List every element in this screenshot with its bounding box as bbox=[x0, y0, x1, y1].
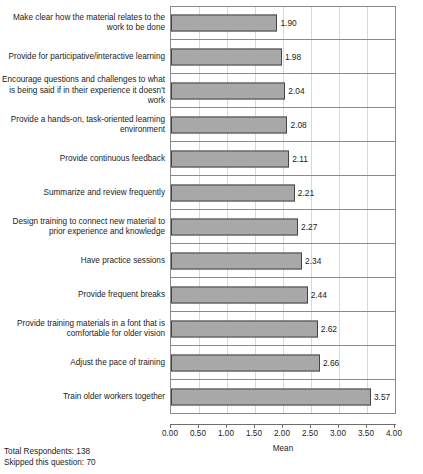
category-label: Provide continuous feedback bbox=[0, 142, 170, 176]
gridline bbox=[367, 40, 368, 73]
gridline bbox=[311, 142, 312, 175]
category-label: Design training to connect new material … bbox=[0, 210, 170, 244]
chart-row: Have practice sessions2.34 bbox=[0, 244, 423, 278]
chart-row: Train older workers together3.57 bbox=[0, 380, 423, 414]
gridline bbox=[367, 108, 368, 141]
category-label: Summarize and review frequently bbox=[0, 176, 170, 210]
chart-row: Make clear how the material relates to t… bbox=[0, 6, 423, 40]
x-axis-tick bbox=[226, 424, 227, 428]
bar bbox=[171, 150, 289, 167]
gridline bbox=[339, 7, 340, 39]
row-plot-area: 2.21 bbox=[170, 176, 396, 210]
row-plot-area: 2.44 bbox=[170, 278, 396, 312]
gridline bbox=[339, 74, 340, 107]
x-axis-tick-label: 2.00 bbox=[274, 429, 290, 438]
bar-chart: Make clear how the material relates to t… bbox=[0, 0, 423, 474]
x-axis-tick bbox=[338, 424, 339, 428]
category-label: Encourage questions and challenges to wh… bbox=[0, 74, 170, 108]
x-axis-tick-label: 3.00 bbox=[330, 429, 346, 438]
x-axis-tick-label: 2.50 bbox=[302, 429, 318, 438]
gridline bbox=[367, 210, 368, 243]
gridline bbox=[339, 210, 340, 243]
bar-value-label: 2.04 bbox=[285, 86, 304, 96]
bar bbox=[171, 82, 285, 99]
x-axis-tick-label: 3.50 bbox=[358, 429, 374, 438]
gridline bbox=[339, 40, 340, 73]
bar-value-label: 1.90 bbox=[277, 18, 296, 28]
gridline bbox=[367, 312, 368, 345]
gridline bbox=[339, 108, 340, 141]
chart-row: Design training to connect new material … bbox=[0, 210, 423, 244]
bar bbox=[171, 218, 298, 235]
x-axis-tick bbox=[198, 424, 199, 428]
row-plot-area: 2.66 bbox=[170, 346, 396, 380]
chart-row: Provide for participative/interactive le… bbox=[0, 40, 423, 74]
row-plot-area: 2.08 bbox=[170, 108, 396, 142]
bar bbox=[171, 286, 308, 303]
bar bbox=[171, 320, 318, 337]
gridline bbox=[339, 278, 340, 311]
bar-value-label: 2.11 bbox=[289, 154, 308, 164]
row-plot-area: 2.11 bbox=[170, 142, 396, 176]
gridline bbox=[311, 7, 312, 39]
gridline bbox=[367, 142, 368, 175]
x-axis-tick bbox=[310, 424, 311, 428]
row-plot-area: 2.34 bbox=[170, 244, 396, 278]
gridline bbox=[311, 40, 312, 73]
chart-row: Summarize and review frequently2.21 bbox=[0, 176, 423, 210]
chart-row: Adjust the pace of training2.66 bbox=[0, 346, 423, 380]
x-axis-title: Mean bbox=[170, 444, 396, 453]
chart-rows: Make clear how the material relates to t… bbox=[0, 6, 423, 414]
chart-row: Provide frequent breaks2.44 bbox=[0, 278, 423, 312]
gridline bbox=[367, 7, 368, 39]
gridline bbox=[311, 74, 312, 107]
category-label: Provide training materials in a font tha… bbox=[0, 312, 170, 346]
x-axis-tick-label: 4.00 bbox=[386, 429, 402, 438]
chart-row: Provide continuous feedback2.11 bbox=[0, 142, 423, 176]
chart-footer: Total Respondents: 138 Skipped this ques… bbox=[4, 446, 96, 468]
category-label: Provide a hands-on, task-oriented learni… bbox=[0, 108, 170, 142]
bar-value-label: 2.66 bbox=[320, 358, 339, 368]
bar-value-label: 2.08 bbox=[287, 120, 306, 130]
gridline bbox=[339, 244, 340, 277]
bar bbox=[171, 48, 282, 65]
chart-row: Provide a hands-on, task-oriented learni… bbox=[0, 108, 423, 142]
bar-value-label: 2.27 bbox=[298, 222, 317, 232]
x-axis-tick bbox=[366, 424, 367, 428]
gridline bbox=[367, 278, 368, 311]
row-plot-area: 2.04 bbox=[170, 74, 396, 108]
row-plot-area: 2.27 bbox=[170, 210, 396, 244]
gridline bbox=[339, 312, 340, 345]
bar-value-label: 2.62 bbox=[318, 324, 337, 334]
gridline bbox=[367, 244, 368, 277]
bar-value-label: 2.21 bbox=[295, 188, 314, 198]
category-label: Adjust the pace of training bbox=[0, 346, 170, 380]
total-respondents-text: Total Respondents: 138 bbox=[4, 446, 96, 457]
x-axis-tick-label: 1.00 bbox=[218, 429, 234, 438]
skipped-question-text: Skipped this question: 70 bbox=[4, 457, 96, 468]
bar-value-label: 3.57 bbox=[371, 392, 390, 402]
gridline bbox=[367, 74, 368, 107]
category-label: Provide for participative/interactive le… bbox=[0, 40, 170, 74]
gridline bbox=[339, 142, 340, 175]
bar bbox=[171, 184, 295, 201]
chart-row: Provide training materials in a font tha… bbox=[0, 312, 423, 346]
category-label: Have practice sessions bbox=[0, 244, 170, 278]
x-axis-tick-label: 0.00 bbox=[162, 429, 178, 438]
bar bbox=[171, 252, 302, 269]
gridline bbox=[311, 108, 312, 141]
bar-value-label: 2.44 bbox=[308, 290, 327, 300]
x-axis-tick-label: 1.50 bbox=[246, 429, 262, 438]
category-label: Provide frequent breaks bbox=[0, 278, 170, 312]
gridline bbox=[367, 176, 368, 209]
gridline bbox=[339, 176, 340, 209]
x-axis-tick bbox=[170, 424, 171, 428]
row-plot-area: 2.62 bbox=[170, 312, 396, 346]
bar-value-label: 1.98 bbox=[282, 52, 301, 62]
bar bbox=[171, 15, 277, 32]
x-axis: 0.000.501.001.502.002.503.003.504.00 Mea… bbox=[170, 424, 396, 474]
x-axis-tick-label: 0.50 bbox=[190, 429, 206, 438]
x-axis-line bbox=[170, 424, 396, 425]
row-plot-area: 3.57 bbox=[170, 380, 396, 414]
gridline bbox=[367, 346, 368, 379]
